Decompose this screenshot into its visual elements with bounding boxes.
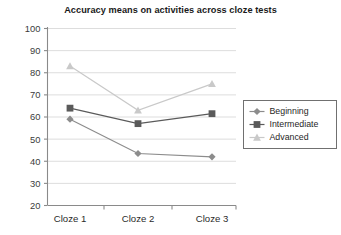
y-tick-label: 40 xyxy=(30,156,40,167)
legend-label-advanced: Advanced xyxy=(270,132,309,142)
y-tick-label: 80 xyxy=(30,67,40,78)
data-point-diamond xyxy=(134,150,141,157)
x-tick-label: Cloze 2 xyxy=(122,213,155,224)
x-tick-label: Cloze 1 xyxy=(54,213,87,224)
data-point-square xyxy=(209,110,216,117)
data-series-group xyxy=(66,62,216,160)
data-point-triangle xyxy=(66,62,74,69)
chart-legend: BeginningIntermediateAdvanced xyxy=(244,101,337,149)
data-point-triangle xyxy=(208,80,216,87)
y-tick-label: 100 xyxy=(25,23,41,34)
gridlines-group xyxy=(48,29,237,184)
chart-container: Accuracy means on activities across cloz… xyxy=(0,0,341,235)
line-chart-plot: 1009080706050403020 Cloze 1Cloze 2Cloze … xyxy=(0,0,341,235)
y-axis-tick-labels: 1009080706050403020 xyxy=(25,23,41,211)
x-axis-tick-labels: Cloze 1Cloze 2Cloze 3 xyxy=(54,213,229,224)
y-tick-label: 30 xyxy=(30,178,40,189)
y-tick-label: 20 xyxy=(30,200,40,211)
y-tick-label: 60 xyxy=(30,111,40,122)
data-point-square xyxy=(67,105,74,112)
x-tick-marks-group xyxy=(104,206,236,210)
y-tick-label: 90 xyxy=(30,45,40,56)
data-point-diamond xyxy=(208,153,215,160)
y-tick-label: 50 xyxy=(30,134,40,145)
legend-label-intermediate: Intermediate xyxy=(270,119,319,129)
x-tick-label: Cloze 3 xyxy=(196,213,229,224)
y-tick-label: 70 xyxy=(30,89,40,100)
data-point-square xyxy=(135,120,142,127)
data-point-square xyxy=(254,121,261,128)
legend-label-beginning: Beginning xyxy=(270,106,309,116)
